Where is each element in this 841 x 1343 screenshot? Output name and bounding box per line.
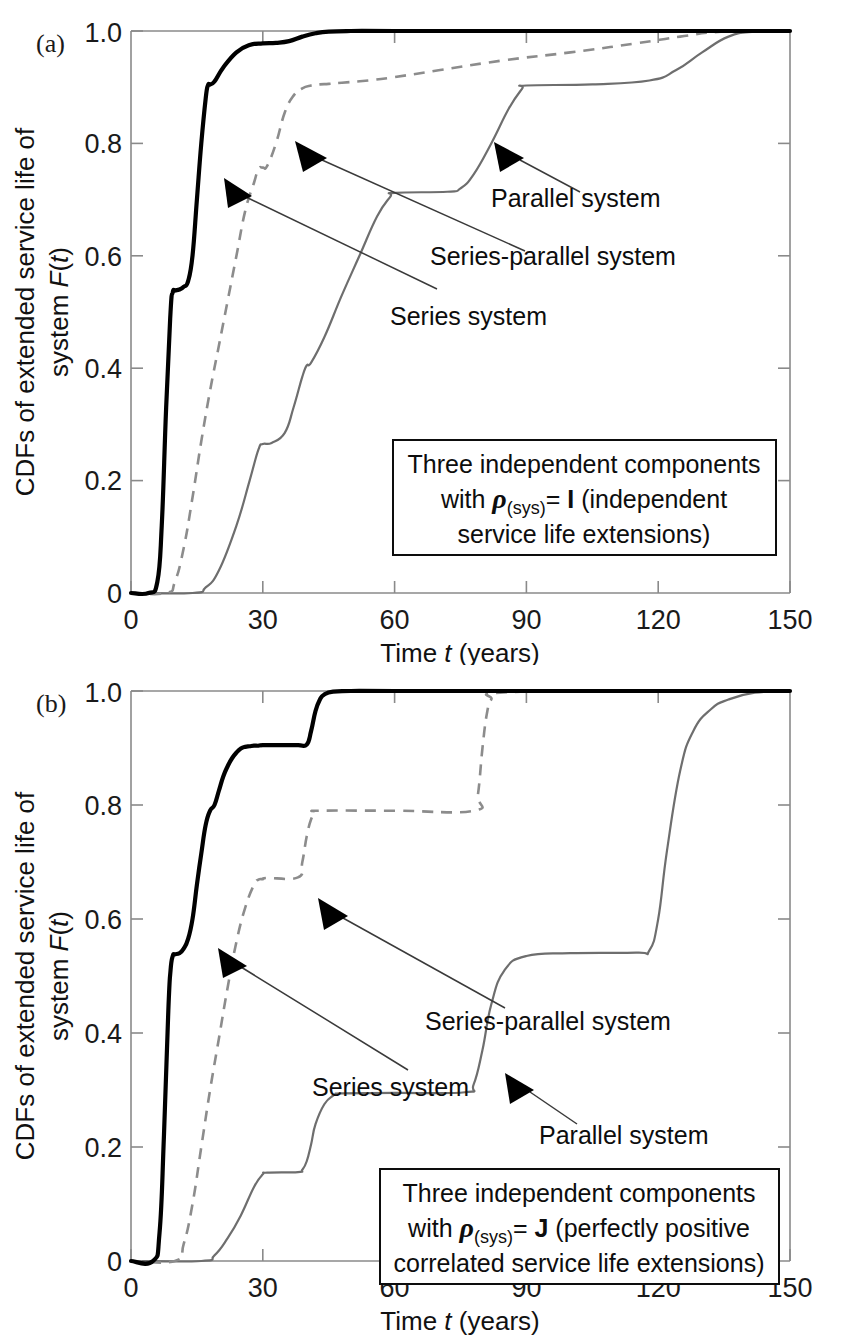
arrow-series-a	[224, 178, 252, 208]
arrow-series-parallel-a	[295, 141, 327, 172]
x-tick-label-4: 120	[636, 605, 681, 635]
y-tick-label-b-4: 0.8	[84, 791, 122, 821]
x-tick-label-5: 150	[767, 605, 812, 635]
x-tick-label-b-1: 30	[248, 1273, 278, 1303]
arrow-parallel-b	[505, 1073, 534, 1104]
y-tick-label-b-1: 0.2	[84, 1133, 122, 1163]
y-axis-title-line1-b: CDFs of extended service life of	[10, 791, 40, 1160]
panel-a: (a) 0 0.2 0.4 0.6 0.8 1.0 0	[0, 0, 841, 665]
info-box-line1-a: Three independent components	[407, 450, 760, 478]
x-tick-label-0: 0	[123, 605, 138, 635]
y-axis-title-line2-b: system F(t)	[44, 911, 74, 1041]
panel-tag-b: (b)	[36, 689, 66, 718]
y-tick-label-5: 1.0	[84, 18, 122, 48]
y-tick-label-3: 0.6	[84, 242, 122, 272]
label-parallel-b: Parallel system	[539, 1121, 709, 1149]
info-box-line3-a: service life extensions)	[458, 520, 711, 548]
y-tick-label-2: 0.4	[84, 354, 122, 384]
label-series-b: Series system	[312, 1073, 469, 1101]
x-tick-label-b-0: 0	[123, 1273, 138, 1303]
info-box-line1-b: Three independent components	[402, 1179, 755, 1207]
x-tick-label-3: 90	[511, 605, 541, 635]
y-tick-label-b-0: 0	[107, 1247, 122, 1277]
y-tick-label-0: 0	[107, 579, 122, 609]
info-box-line2-b: with ρ(sys)= J (perfectly positive	[407, 1212, 750, 1247]
y-tick-label-1: 0.2	[84, 466, 122, 496]
y-tick-label-b-5: 1.0	[84, 678, 122, 708]
panel-tag-a: (a)	[36, 29, 65, 58]
y-tick-label-b-3: 0.6	[84, 905, 122, 935]
info-box-line3-b: correlated service life extensions)	[394, 1249, 765, 1277]
arrow-parallel-a	[494, 142, 524, 172]
label-series-a: Series system	[390, 302, 547, 330]
y-tick-label-4: 0.8	[84, 129, 122, 159]
panel-b: (b) 0 0.2 0.4 0.6 0.8 1.0 0 30 60	[0, 660, 841, 1343]
info-box-line2-a: with ρ(sys)= I (independent	[440, 483, 727, 518]
label-parallel-a: Parallel system	[491, 184, 661, 212]
x-tick-label-2: 60	[380, 605, 410, 635]
y-axis-title-line2-a: system F(t)	[44, 247, 74, 377]
arrow-series-parallel-b	[318, 898, 348, 930]
info-box-a: Three independent components with ρ(sys)…	[393, 440, 776, 555]
info-box-b: Three independent components with ρ(sys)…	[380, 1169, 779, 1284]
x-tick-label-1: 30	[248, 605, 278, 635]
x-axis-title-b: Time t (years)	[380, 1306, 539, 1336]
label-series-parallel-a: Series-parallel system	[430, 242, 676, 270]
y-axis-title-line1-a: CDFs of extended service life of	[10, 127, 40, 496]
chart-b: (b) 0 0.2 0.4 0.6 0.8 1.0 0 30 60	[0, 660, 841, 1343]
chart-a: (a) 0 0.2 0.4 0.6 0.8 1.0 0	[0, 0, 841, 665]
y-tick-label-b-2: 0.4	[84, 1019, 122, 1049]
label-series-parallel-b: Series-parallel system	[425, 1007, 671, 1035]
arrow-series-b	[218, 948, 247, 978]
